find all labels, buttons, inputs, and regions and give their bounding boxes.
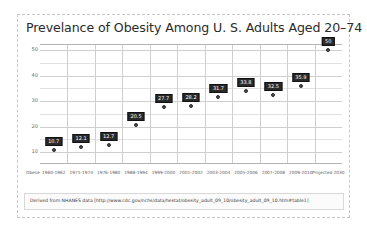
gridline-vertical <box>95 45 96 163</box>
gridline-horizontal <box>40 127 342 128</box>
y-tick-label: 40 <box>24 72 38 78</box>
data-point-label: 10.7 <box>45 137 62 146</box>
data-point-label: 35.9 <box>292 73 309 82</box>
data-point <box>162 105 166 109</box>
y-tick-label: 10 <box>24 148 38 154</box>
data-point-label: 20.5 <box>128 112 145 121</box>
data-point-label: 12.1 <box>73 134 90 143</box>
gridline-vertical <box>287 45 288 163</box>
x-tick-label: 1960-1962 <box>42 170 65 175</box>
x-tick-label: 2005-2006 <box>234 170 257 175</box>
y-tick-label: 30 <box>24 97 38 103</box>
gridline-vertical <box>205 45 206 163</box>
gridline-vertical <box>122 45 123 163</box>
data-point-label: 31.7 <box>210 84 227 93</box>
x-tick-label: 2001-2002 <box>179 170 202 175</box>
data-point <box>326 48 330 52</box>
x-tick-label: 1971-1974 <box>69 170 92 175</box>
x-tick-label: 2009-2010 <box>289 170 312 175</box>
data-point <box>107 143 111 147</box>
data-point <box>134 123 138 127</box>
gridline-vertical <box>177 45 178 163</box>
data-point <box>299 84 303 88</box>
y-tick-label: 50 <box>24 46 38 52</box>
data-point <box>52 148 56 152</box>
slide-canvas: Prevelance of Obesity Among U. S. Adults… <box>0 0 367 232</box>
data-point-label: 12.7 <box>100 132 117 141</box>
source-note-box: Derived from NHANES data [http://www.cdc… <box>24 193 344 210</box>
data-point-label: 27.7 <box>155 94 172 103</box>
data-point-label: 50 <box>322 37 334 46</box>
x-axis-corner-label: Obese <box>26 170 40 175</box>
y-axis: 1020304050 <box>24 44 38 164</box>
x-tick-label: 1988-1994 <box>124 170 147 175</box>
data-point-label: 28.2 <box>182 93 199 102</box>
data-point <box>216 95 220 99</box>
data-point <box>244 89 248 93</box>
chart-grid: 10.712.112.720.527.728.231.733.832.535.9… <box>40 44 342 164</box>
source-note-text: Derived from NHANES data [http://www.cdc… <box>30 198 309 203</box>
data-point-label: 33.8 <box>237 78 254 87</box>
gridline-horizontal <box>40 152 342 153</box>
gridline-horizontal-minor <box>40 63 342 64</box>
gridline-horizontal <box>40 50 342 51</box>
x-tick-label: 1976-1980 <box>97 170 120 175</box>
gridline-vertical <box>260 45 261 163</box>
data-point <box>189 104 193 108</box>
x-tick-label: 2003-2004 <box>207 170 230 175</box>
gridline-vertical <box>315 45 316 163</box>
page-title: Prevelance of Obesity Among U. S. Adults… <box>26 20 346 35</box>
data-point <box>79 145 83 149</box>
gridline-vertical <box>67 45 68 163</box>
x-axis: Obese1960-19621971-19741976-19801988-199… <box>40 166 342 182</box>
data-point <box>271 93 275 97</box>
x-tick-label: 2007-2008 <box>262 170 285 175</box>
chart-plot-area: 1020304050 10.712.112.720.527.728.231.73… <box>24 44 344 186</box>
data-point-label: 32.5 <box>265 82 282 91</box>
gridline-horizontal-minor <box>40 114 342 115</box>
y-tick-label: 20 <box>24 123 38 129</box>
gridline-vertical <box>150 45 151 163</box>
x-tick-label: 1999-2000 <box>152 170 175 175</box>
gridline-horizontal-minor <box>40 88 342 89</box>
x-tick-label: Projected 2030 <box>312 170 344 175</box>
gridline-vertical <box>232 45 233 163</box>
